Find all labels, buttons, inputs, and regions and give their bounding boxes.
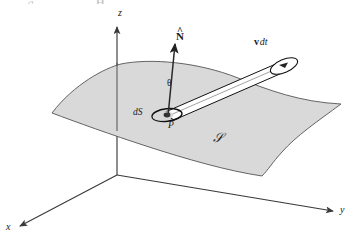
x-axis-line: [20, 175, 117, 226]
time-differential-symbol: dt: [260, 36, 268, 47]
point-p-dot: [164, 113, 171, 118]
area-element-label: dS: [133, 108, 143, 118]
velocity-displacement-label: v dt: [254, 37, 268, 47]
angle-theta-label: θ: [167, 79, 172, 89]
y-axis-line: [117, 175, 333, 211]
surface-label: 𝒮: [213, 131, 223, 144]
flux-through-surface-figure: g H: [0, 0, 358, 240]
normal-vector-label: ^ N: [176, 31, 184, 42]
circumflex-accent-icon: ^: [176, 26, 184, 36]
axis-label-y: y: [340, 205, 344, 215]
axis-label-x: x: [6, 222, 10, 232]
surface-fill-shape: [52, 61, 341, 176]
point-p-label: P: [168, 121, 174, 131]
surface-patch: [52, 61, 341, 176]
axis-label-z: z: [118, 8, 122, 18]
